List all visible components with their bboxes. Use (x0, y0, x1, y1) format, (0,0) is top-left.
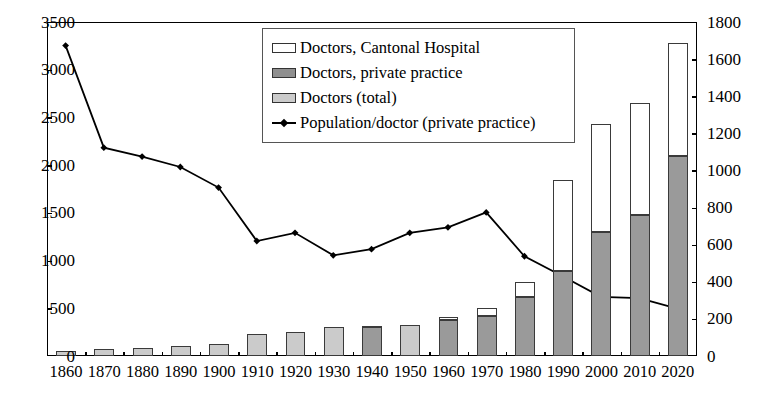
bar-cantonal-hospital-2000 (591, 124, 611, 232)
legend-label-private-practice: Doctors, private practice (300, 64, 463, 81)
left-axis-tick (47, 261, 52, 263)
x-axis-tick (162, 352, 164, 356)
line-marker-1880 (139, 153, 146, 160)
bar-doctors-total-1950 (400, 325, 420, 356)
right-axis-tick-label: 400 (707, 273, 733, 290)
x-axis-tick (544, 352, 546, 356)
x-axis-tick (276, 352, 278, 356)
right-axis-tick (692, 96, 697, 98)
bar-doctors-total-1900 (209, 344, 229, 356)
bar-cantonal-hospital-1980 (515, 282, 535, 297)
line-marker-1940 (368, 246, 375, 253)
bar-private-practice-1940 (362, 327, 382, 356)
bar-private-practice-1960 (439, 320, 459, 356)
line-marker-1870 (100, 144, 107, 151)
bar-doctors-total-1880 (133, 348, 153, 356)
bar-cantonal-hospital-2020 (668, 43, 688, 156)
bar-cantonal-hospital-2010 (630, 103, 650, 215)
bar-private-practice-2020 (668, 156, 688, 356)
right-axis-tick (692, 319, 697, 321)
left-axis-tick-label: 3500 (41, 14, 75, 31)
legend-line-diamond-icon (272, 118, 296, 128)
bar-private-practice-1980 (515, 297, 535, 356)
bar-private-practice-2000 (591, 232, 611, 356)
bar-doctors-total-1930 (324, 327, 344, 356)
left-axis-tick (47, 308, 52, 310)
x-axis-tick (200, 352, 202, 356)
right-axis-tick-label: 1000 (707, 162, 741, 179)
x-axis-tick (506, 352, 508, 356)
bar-doctors-total-1870 (94, 349, 114, 356)
combo-chart: 0500100015002000250030003500 02004006008… (0, 0, 780, 404)
x-axis-tick (353, 352, 355, 356)
right-axis-tick-label: 1800 (707, 14, 741, 31)
x-axis-tick (582, 352, 584, 356)
left-axis-tick (47, 165, 52, 167)
bar-cantonal-hospital-1990 (553, 180, 573, 271)
right-axis-tick-label: 600 (707, 236, 733, 253)
line-marker-1960 (445, 224, 452, 231)
left-axis-tick (47, 70, 52, 72)
right-axis-tick-label: 1600 (707, 51, 741, 68)
line-marker-1860 (62, 42, 69, 49)
left-axis-tick (47, 213, 52, 215)
right-axis-tick-label: 1400 (707, 88, 741, 105)
bar-cantonal-hospital-1970 (477, 308, 497, 316)
right-axis-tick (692, 133, 697, 135)
bar-cantonal-hospital-1940 (362, 326, 382, 328)
right-axis-tick (692, 208, 697, 210)
legend-label-doctors-total: Doctors (total) (300, 89, 397, 106)
bar-doctors-total-1910 (247, 334, 267, 356)
legend-swatch-icon-cantonal-hospital (272, 43, 296, 53)
legend-label-population-per-doctor: Population/doctor (private practice) (300, 114, 536, 131)
legend-label-cantonal-hospital: Doctors, Cantonal Hospital (300, 39, 480, 56)
line-marker-1890 (177, 164, 184, 171)
bar-cantonal-hospital-1960 (439, 317, 459, 320)
x-axis-tick (391, 352, 393, 356)
x-axis-tick (85, 352, 87, 356)
bar-doctors-total-1890 (171, 346, 191, 356)
bar-doctors-total-1920 (286, 332, 306, 356)
legend-item-doctors-total: Doctors (total) (272, 85, 565, 110)
legend-swatch-icon-private-practice (272, 68, 296, 78)
line-marker-1950 (406, 229, 413, 236)
bar-private-practice-2010 (630, 215, 650, 356)
legend-item-population-per-doctor: Population/doctor (private practice) (272, 110, 565, 135)
x-axis-tick (621, 352, 623, 356)
chart-legend: Doctors, Cantonal Hospital Doctors, priv… (262, 28, 575, 143)
right-axis-tick (692, 245, 697, 247)
x-axis-tick (238, 352, 240, 356)
right-axis-tick-label: 200 (707, 310, 733, 327)
right-axis-tick (692, 282, 697, 284)
bar-private-practice-1970 (477, 316, 497, 356)
x-axis-tick (429, 352, 431, 356)
left-axis-tick (47, 117, 52, 119)
x-axis-tick (468, 352, 470, 356)
right-axis-tick-label: 1200 (707, 125, 741, 142)
x-axis-tick-label-2020: 2020 (656, 364, 700, 381)
x-axis-tick (123, 352, 125, 356)
right-axis-tick (692, 59, 697, 61)
legend-item-cantonal-hospital: Doctors, Cantonal Hospital (272, 35, 565, 60)
right-axis-tick-label: 0 (707, 348, 716, 365)
x-axis-tick (315, 352, 317, 356)
x-axis-tick (659, 352, 661, 356)
legend-item-private-practice: Doctors, private practice (272, 60, 565, 85)
bar-private-practice-1990 (553, 271, 573, 356)
legend-swatch-icon-doctors-total (272, 93, 296, 103)
left-axis-tick-label: 500 (50, 300, 76, 317)
right-axis-tick (692, 170, 697, 172)
right-axis-tick-label: 800 (707, 199, 733, 216)
